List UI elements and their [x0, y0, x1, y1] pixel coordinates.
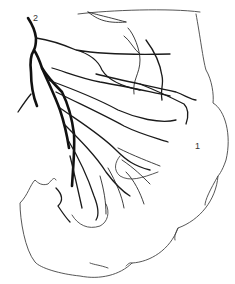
top-branch: [88, 12, 126, 22]
upper-branch-2: [52, 68, 170, 96]
lower-right-branches: [100, 148, 160, 214]
trunk-branch-b: [42, 68, 74, 186]
label-2: 2: [33, 14, 38, 23]
inner-loop: [72, 204, 108, 227]
left-twig: [18, 94, 31, 112]
trunk-branch-a: [30, 50, 37, 106]
inner-loop-right: [115, 156, 158, 179]
right-lobe-outline: [90, 176, 218, 268]
far-right-branch: [140, 84, 188, 124]
label-1: 1: [195, 142, 200, 151]
left-lower-twig: [56, 188, 70, 222]
diagram-canvas: 2 1: [0, 0, 235, 284]
main-trunk: [28, 18, 69, 148]
